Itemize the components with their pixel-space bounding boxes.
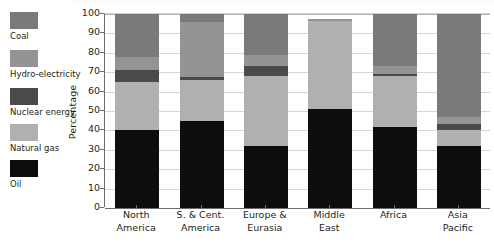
plot-area: Percentage 1009080706050403020100 NorthA… bbox=[74, 0, 494, 244]
x-axis-label-middle-east: MiddleEast bbox=[297, 209, 361, 234]
y-tick-label: 30 bbox=[74, 144, 100, 154]
x-axis-label-line: North bbox=[104, 209, 168, 222]
x-axis-labels: NorthAmericaS. & Cent.AmericaEurope &Eur… bbox=[104, 209, 490, 244]
legend-item-oil: Oil bbox=[10, 160, 38, 189]
bar-segment-nuclear-energy[interactable] bbox=[115, 70, 159, 82]
x-axis-label-north-america: NorthAmerica bbox=[104, 209, 168, 234]
x-axis-label-europe-eurasia: Europe &Eurasia bbox=[233, 209, 297, 234]
bar-stack bbox=[437, 14, 481, 207]
y-tick-mark bbox=[100, 110, 104, 111]
y-tick-mark bbox=[100, 52, 104, 53]
bar-segment-oil[interactable] bbox=[180, 121, 224, 208]
x-axis-label-line: East bbox=[297, 222, 361, 235]
bar-stack bbox=[180, 14, 224, 207]
bar-group[interactable] bbox=[244, 14, 288, 207]
bar-segment-natural-gas[interactable] bbox=[437, 130, 481, 146]
y-tick-mark bbox=[100, 32, 104, 33]
bar-segment-nuclear-energy[interactable] bbox=[373, 74, 417, 76]
legend-swatch-coal bbox=[10, 12, 38, 29]
x-axis-label-s-cent-america: S. & Cent.America bbox=[168, 209, 232, 234]
crop-remnant bbox=[74, 0, 494, 4]
legend-swatch-natural-gas bbox=[10, 124, 38, 141]
legend-swatch-oil bbox=[10, 160, 38, 177]
bar-group[interactable] bbox=[180, 14, 224, 207]
y-tick-mark bbox=[100, 168, 104, 169]
y-tick-label: 90 bbox=[74, 27, 100, 37]
bar-segment-nuclear-energy[interactable] bbox=[437, 124, 481, 131]
bar-stack bbox=[373, 14, 417, 207]
x-axis-label-line: Asia bbox=[426, 209, 490, 222]
bar-segment-coal[interactable] bbox=[373, 14, 417, 66]
y-tick-label: 80 bbox=[74, 47, 100, 57]
y-tick-label: 10 bbox=[74, 183, 100, 193]
bar-group[interactable] bbox=[373, 14, 417, 207]
axes-frame bbox=[104, 13, 490, 207]
bar-stack bbox=[308, 14, 352, 207]
y-tick-mark bbox=[100, 188, 104, 189]
bar-segment-oil[interactable] bbox=[437, 146, 481, 208]
bar-segment-natural-gas[interactable] bbox=[308, 21, 352, 109]
x-axis-label-line: Eurasia bbox=[233, 222, 297, 235]
bar-segment-nuclear-energy[interactable] bbox=[180, 77, 224, 80]
bar-segment-oil[interactable] bbox=[115, 130, 159, 208]
x-axis-label-line: Africa bbox=[361, 209, 425, 222]
y-tick-label: 60 bbox=[74, 86, 100, 96]
legend-label: Natural gas bbox=[10, 143, 59, 153]
x-axis-label-asia-pacific: AsiaPacific bbox=[426, 209, 490, 234]
legend-item-nuclear-energy: Nuclear energy bbox=[10, 88, 75, 117]
legend-item-hydro-electricity: Hydro-electricity bbox=[10, 50, 81, 79]
legend-item-coal: Coal bbox=[10, 12, 38, 41]
bar-segment-natural-gas[interactable] bbox=[115, 82, 159, 131]
x-axis-label-line: S. & Cent. bbox=[168, 209, 232, 222]
bar-segment-coal[interactable] bbox=[115, 14, 159, 57]
bar-segment-natural-gas[interactable] bbox=[244, 76, 288, 146]
y-tick-mark bbox=[100, 129, 104, 130]
y-tick-mark bbox=[100, 149, 104, 150]
y-axis-ticks: 1009080706050403020100 bbox=[74, 0, 100, 244]
legend-label: Oil bbox=[10, 179, 38, 189]
y-tick-label: 100 bbox=[74, 8, 100, 18]
x-axis-label-line: Europe & bbox=[233, 209, 297, 222]
chart-figure: CoalHydro-electricityNuclear energyNatur… bbox=[0, 0, 494, 244]
bar-group[interactable] bbox=[437, 14, 481, 207]
legend-swatch-nuclear-energy bbox=[10, 88, 38, 105]
bar-stack bbox=[244, 14, 288, 207]
bar-segment-hydro-electricity[interactable] bbox=[437, 117, 481, 124]
legend-swatch-hydro-electricity bbox=[10, 50, 38, 67]
legend-label: Nuclear energy bbox=[10, 107, 75, 117]
bar-segment-oil[interactable] bbox=[373, 127, 417, 208]
x-axis-label-africa: Africa bbox=[361, 209, 425, 222]
y-tick-label: 70 bbox=[74, 66, 100, 76]
bar-segment-oil[interactable] bbox=[244, 146, 288, 208]
bar-segment-hydro-electricity[interactable] bbox=[308, 19, 352, 21]
y-tick-mark bbox=[100, 91, 104, 92]
bar-segment-nuclear-energy[interactable] bbox=[244, 66, 288, 76]
bar-segment-natural-gas[interactable] bbox=[373, 76, 417, 126]
bar-group[interactable] bbox=[308, 14, 352, 207]
legend-item-natural-gas: Natural gas bbox=[10, 124, 59, 153]
y-tick-label: 20 bbox=[74, 163, 100, 173]
bar-segment-coal[interactable] bbox=[180, 14, 224, 22]
y-tick-label: 40 bbox=[74, 124, 100, 134]
y-tick-mark bbox=[100, 13, 104, 14]
legend-label: Hydro-electricity bbox=[10, 69, 81, 79]
y-tick-mark bbox=[100, 71, 104, 72]
y-tick-label: 0 bbox=[74, 202, 100, 212]
bar-segment-hydro-electricity[interactable] bbox=[115, 57, 159, 71]
bar-segment-oil[interactable] bbox=[308, 109, 352, 208]
bar-segment-hydro-electricity[interactable] bbox=[244, 55, 288, 67]
x-axis-label-line: Pacific bbox=[426, 222, 490, 235]
x-axis-label-line: America bbox=[104, 222, 168, 235]
bar-segment-coal[interactable] bbox=[244, 14, 288, 55]
bar-series-container bbox=[105, 14, 490, 207]
bar-segment-hydro-electricity[interactable] bbox=[180, 22, 224, 77]
bar-segment-coal[interactable] bbox=[437, 14, 481, 117]
y-tick-mark bbox=[100, 207, 104, 208]
bar-stack bbox=[115, 14, 159, 207]
bar-segment-natural-gas[interactable] bbox=[180, 80, 224, 121]
legend-label: Coal bbox=[10, 31, 38, 41]
y-tick-label: 50 bbox=[74, 105, 100, 115]
chart-legend: CoalHydro-electricityNuclear energyNatur… bbox=[0, 0, 74, 244]
bar-segment-hydro-electricity[interactable] bbox=[373, 66, 417, 74]
bar-group[interactable] bbox=[115, 14, 159, 207]
